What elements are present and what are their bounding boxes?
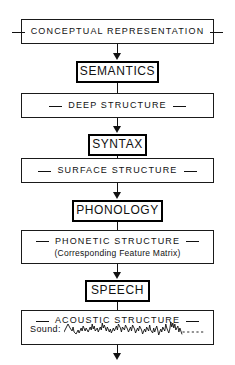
node-conceptual-representation: CONCEPTUAL REPRESENTATION (21, 19, 214, 44)
dash-left-icon (12, 27, 25, 37)
arrowhead-9-icon (113, 353, 121, 360)
arrowhead-3-icon (113, 126, 121, 133)
connector-2 (117, 83, 118, 93)
node-label: SEMANTICS (80, 65, 155, 79)
arrowhead-5-icon (113, 192, 121, 199)
dash-left-icon (38, 166, 51, 176)
node-surface-structure: SURFACE STRUCTURE (21, 158, 214, 183)
dash-left-icon (36, 236, 49, 246)
dash-left-icon (49, 101, 62, 111)
node-phonology: PHONOLOGY (72, 200, 163, 222)
arrowhead-1-icon (113, 53, 121, 60)
node-label: PHONETIC STRUCTURE (36, 236, 199, 247)
node-label: CONCEPTUAL REPRESENTATION (12, 26, 224, 37)
node-syntax: SYNTAX (88, 134, 147, 156)
sound-caption: Sound: (30, 324, 61, 334)
node-label: SPEECH (91, 284, 144, 298)
flow-diagram: CONCEPTUAL REPRESENTATION SEMANTICS DEEP… (0, 0, 235, 365)
node-phonetic-structure: PHONETIC STRUCTURE (Corresponding Featur… (21, 230, 214, 264)
dash-right-icon (210, 27, 223, 37)
node-label: PHONOLOGY (76, 204, 159, 218)
node-label: DEEP STRUCTURE (49, 100, 185, 111)
dash-right-icon (173, 101, 186, 111)
node-deep-structure: DEEP STRUCTURE (21, 93, 214, 118)
node-acoustic-structure: ACOUSTIC STRUCTURE Sound: (21, 310, 214, 345)
node-semantics: SEMANTICS (76, 61, 159, 83)
arrowhead-7-icon (113, 272, 121, 279)
connector-8 (117, 302, 118, 310)
node-label: SURFACE STRUCTURE (38, 165, 196, 176)
sound-row: Sound: (30, 319, 205, 339)
node-sublabel: (Corresponding Feature Matrix) (54, 248, 180, 258)
dash-right-icon (184, 166, 197, 176)
sound-waveform-icon (64, 319, 205, 339)
node-label: SYNTAX (92, 138, 143, 152)
node-speech: SPEECH (85, 280, 150, 302)
dash-right-icon (186, 236, 199, 246)
